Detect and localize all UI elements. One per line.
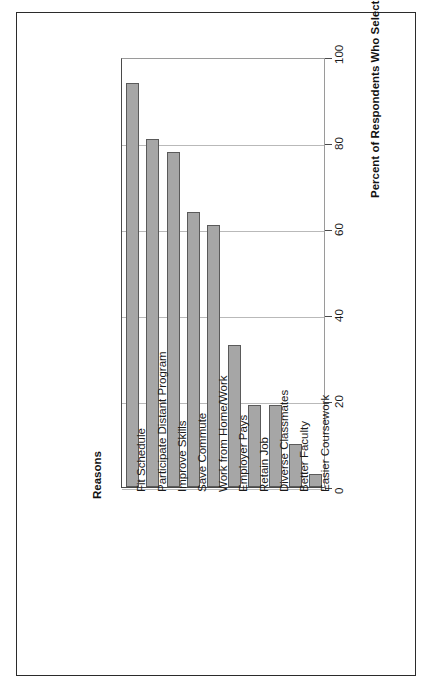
value-tick-label: 80 [333,137,345,150]
value-axis-title: Percent of Respondents Who Selected Reas… [369,0,381,198]
category-label: Retain Job [258,437,270,492]
category-label: Improve Skills [176,420,188,492]
category-label: Better Faculty [298,421,310,492]
category-label: Fit Schedule [135,428,147,492]
value-tick-mark [325,230,332,231]
bar [126,83,139,487]
value-tick-label: 60 [333,223,345,236]
category-label: Easier Coursework [319,395,331,492]
figure-frame: 020406080100 Percent of Respondents Who … [16,12,416,676]
category-label: Diverse Classmates [278,390,290,492]
value-tick-mark [325,144,332,145]
category-axis-title: Reasons [91,451,103,499]
category-label: Work from Home/Work [217,375,229,492]
category-label: Participate Distant Program [156,351,168,492]
value-tick-mark [325,58,332,59]
value-axis: 020406080100 [325,58,365,488]
category-label: Employer Pays [237,415,249,492]
value-tick-label: 0 [333,488,345,494]
category-label: Save Commute [196,413,208,492]
value-tick-label: 20 [333,395,345,408]
scan-top-clipped-text [196,0,428,7]
value-tick-label: 40 [333,309,345,322]
value-tick-mark [325,316,332,317]
category-axis: Fit ScheduleParticipate Distant ProgramI… [121,492,325,642]
value-tick-label: 100 [333,45,345,64]
